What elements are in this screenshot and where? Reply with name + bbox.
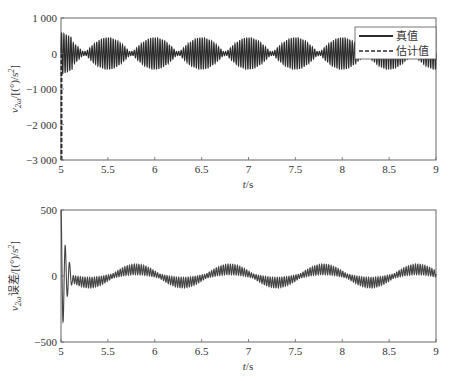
x-tick-label: 6 <box>152 345 158 357</box>
x-tick-label: 5.5 <box>101 163 115 175</box>
y-tick-label: −500 <box>34 336 57 348</box>
x-tick-label: 6 <box>152 163 158 175</box>
x-tick-label: 7 <box>246 163 252 175</box>
y-tick-label: 0 <box>52 48 58 60</box>
x-tick-label: 5 <box>58 345 64 357</box>
top-x-axis-label: t/s <box>243 178 253 190</box>
x-tick-label: 9 <box>433 163 439 175</box>
x-tick-label: 8.5 <box>382 345 396 357</box>
top-y-axis-label: v2ω/[(°)/s2] <box>7 65 23 113</box>
x-tick-label: 8 <box>340 163 346 175</box>
x-tick-label: 9 <box>433 345 439 357</box>
top-chart-panel: 55.566.577.588.59 −3 000−2 000−1 00001 0… <box>7 12 439 190</box>
figure: 55.566.577.588.59 −3 000−2 000−1 00001 0… <box>0 0 451 381</box>
bottom-y-axis-label: v2ω误差/[(°)/s2] <box>7 241 23 311</box>
x-tick-label: 5.5 <box>101 345 115 357</box>
y-tick-label: 500 <box>41 204 58 216</box>
legend: 真值 估计值 <box>355 27 436 59</box>
x-tick-label: 7.5 <box>289 345 303 357</box>
x-tick-label: 7.5 <box>289 163 303 175</box>
x-tick-label: 7 <box>246 345 252 357</box>
legend-estimate-label: 估计值 <box>396 45 429 58</box>
top-y-ticks: −3 000−2 000−1 00001 000 <box>26 12 64 166</box>
y-tick-label: −1 000 <box>26 83 57 95</box>
bottom-y-ticks: −5000500 <box>34 204 64 348</box>
x-tick-label: 8.5 <box>382 163 396 175</box>
y-tick-label: −3 000 <box>26 154 57 166</box>
x-tick-label: 6.5 <box>195 163 209 175</box>
x-tick-label: 6.5 <box>195 345 209 357</box>
x-tick-label: 5 <box>58 163 64 175</box>
y-tick-label: 1 000 <box>32 12 57 24</box>
legend-true-label: 真值 <box>396 29 418 43</box>
x-tick-label: 8 <box>340 345 346 357</box>
y-tick-label: −2 000 <box>26 119 57 131</box>
y-tick-label: 0 <box>52 270 58 282</box>
bottom-chart-panel: 55.566.577.588.59 −5000500 t/s v2ω误差/[(°… <box>7 204 439 372</box>
bottom-x-axis-label: t/s <box>243 360 253 372</box>
